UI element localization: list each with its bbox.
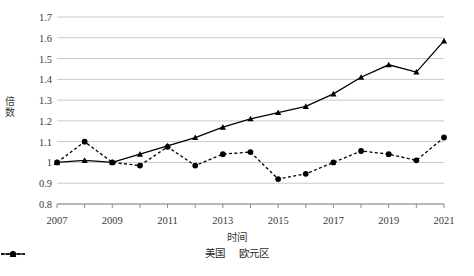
data-point — [386, 62, 392, 68]
data-point — [109, 160, 115, 166]
data-point — [331, 160, 337, 166]
data-point — [303, 171, 309, 177]
data-point — [441, 38, 447, 44]
series-line-1 — [57, 41, 444, 163]
data-point — [386, 151, 392, 157]
x-axis-tick-label: 2007 — [47, 215, 68, 226]
data-point — [330, 91, 336, 97]
x-axis-tick-label: 2019 — [378, 215, 399, 226]
x-axis-tick-label: 2011 — [157, 215, 178, 226]
data-point — [82, 139, 88, 145]
data-point — [54, 160, 60, 166]
data-point — [220, 151, 226, 157]
legend-label: 美国 — [205, 248, 225, 260]
legend-circle-marker-icon — [0, 248, 26, 260]
data-point — [441, 135, 447, 141]
data-point — [248, 149, 254, 155]
data-point — [413, 157, 419, 163]
legend-label: 欧元区 — [239, 248, 269, 260]
data-point — [358, 148, 364, 154]
x-axis-tick-label: 2015 — [268, 215, 289, 226]
x-axis-tick-label: 2009 — [102, 215, 123, 226]
data-point — [275, 176, 281, 182]
data-point — [192, 163, 198, 169]
x-axis-tick-label: 2021 — [434, 215, 455, 226]
series-line-2 — [57, 138, 444, 180]
chart-legend: 美国欧元区 — [0, 248, 474, 260]
x-axis-tick-label: 2013 — [212, 215, 233, 226]
line-chart: 倍数 0.80.911.11.21.31.41.51.61.7 20072009… — [0, 0, 474, 276]
data-point — [165, 144, 171, 150]
x-axis-tick-label: 2017 — [323, 215, 344, 226]
legend-item-1[interactable]: 美国 — [205, 248, 225, 260]
data-point — [137, 163, 143, 169]
legend-item-2[interactable]: 欧元区 — [239, 248, 269, 260]
x-axis-label: 时间 — [0, 229, 474, 244]
